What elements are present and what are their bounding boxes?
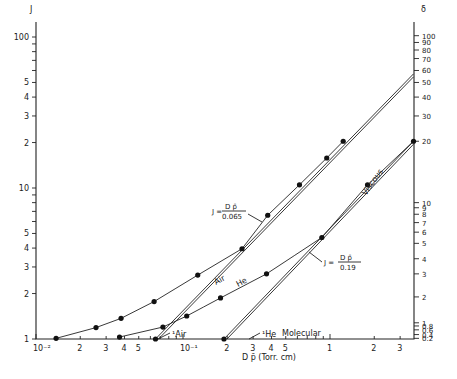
- x-tick-label: 1: [327, 344, 332, 353]
- y-tick-label: 4: [24, 93, 29, 102]
- he-marker-label: ¹He: [262, 330, 276, 339]
- x-tick-label: 4: [122, 344, 127, 353]
- eq1-denominator: 0.065: [222, 213, 242, 221]
- y-axis-label: J: [29, 5, 32, 14]
- x-tick-label: 3: [250, 344, 255, 353]
- y-tick-label: 5: [24, 78, 29, 87]
- eq1-numerator: D p̄: [225, 203, 238, 211]
- x-tick-label: 5: [136, 344, 141, 353]
- axis-frame: [36, 22, 414, 339]
- asymptote-line-double: [158, 77, 413, 339]
- data-point-he: [411, 139, 416, 144]
- x-ticks: 10⁻²234510⁻¹2345123: [33, 334, 402, 353]
- x-tick-label: 4: [269, 344, 274, 353]
- x-tick-label: 2: [77, 344, 82, 353]
- y-tick-label: 3: [24, 263, 29, 272]
- y2-tick-label: 60: [422, 67, 431, 75]
- axes: [36, 22, 414, 339]
- data-point-air: [324, 155, 329, 160]
- y-tick-label: 1: [24, 335, 29, 344]
- data-point-he: [184, 313, 189, 318]
- data-point-air: [53, 336, 58, 341]
- y-tick-label: 2: [24, 139, 29, 148]
- y2-tick-label: 1: [422, 320, 426, 328]
- y2-tick-label: 10: [422, 200, 431, 208]
- x-axis-label: D p̄ (Torr. cm): [242, 353, 296, 362]
- molecular-label: Molecular: [282, 329, 322, 338]
- data-point-air: [297, 182, 302, 187]
- asymptote-line: [155, 74, 413, 339]
- data-point-he: [319, 235, 324, 240]
- equation-air: J = D p̄ 0.065: [211, 203, 262, 222]
- data-point-he: [160, 324, 165, 329]
- eq2-lhs: J =: [323, 259, 334, 267]
- viscous-label: Viscous: [360, 167, 385, 197]
- y2-tick-label: 40: [422, 94, 431, 102]
- y2-tick-label: 80: [422, 47, 431, 55]
- y2-tick-label: 30: [422, 113, 431, 121]
- y2-tick-label: 2: [422, 294, 426, 302]
- x-tick-label: 3: [103, 344, 108, 353]
- air-curve-label: Air: [213, 273, 228, 287]
- y2-tick-label: 5: [422, 240, 426, 248]
- x-tick-label: 2: [371, 344, 376, 353]
- he-curve-label: He: [235, 276, 249, 289]
- y2-tick-label: 3: [422, 271, 426, 279]
- equation-he: J = D p̄ 0.19: [309, 252, 361, 272]
- x-tick-label: 2: [224, 344, 229, 353]
- y2-tick-label: 70: [422, 56, 431, 64]
- x-tick-label: 3: [397, 344, 402, 353]
- y-tick-label: 10: [19, 184, 29, 193]
- asymptote-line-double: [227, 144, 414, 339]
- eq2-denominator: 0.19: [340, 264, 356, 272]
- data-point-he: [117, 334, 122, 339]
- y2-tick-label: 100: [422, 33, 435, 41]
- data-point-air: [265, 213, 270, 218]
- y2-tick-label: 7: [422, 220, 426, 228]
- data-point-air: [118, 316, 123, 321]
- x-tick-label: 10⁻¹: [180, 344, 198, 353]
- y2-tick-label: 50: [422, 79, 431, 87]
- y-tick-label: 2: [24, 290, 29, 299]
- data-point-he: [218, 295, 223, 300]
- y2-tick-label: 4: [422, 256, 427, 264]
- asymptote-origin-point: [153, 336, 158, 341]
- data-point-air: [195, 272, 200, 277]
- y-tick-label: 100: [14, 33, 29, 42]
- curve-he: [120, 141, 414, 337]
- he-marker-leader: [249, 333, 260, 339]
- y-tick-label: 5: [24, 229, 29, 238]
- y2-tick-label: 20: [422, 138, 431, 146]
- y-tick-label: 4: [24, 244, 29, 253]
- x-tick-label: 5: [283, 344, 288, 353]
- x-tick-label: 10⁻²: [33, 344, 51, 353]
- y-ticks: 12345102345100: [14, 33, 36, 344]
- y2-tick-label: 6: [422, 229, 427, 237]
- asymptote-origin-point: [221, 336, 226, 341]
- y2-axis-label: δ: [421, 5, 426, 14]
- data-point-he: [264, 271, 269, 276]
- eq1-lhs: J =: [211, 208, 222, 216]
- data-point-air: [152, 299, 157, 304]
- data-points: [53, 139, 416, 342]
- y2-ticks: 0.20.40.60.81234567891020304050607080901…: [414, 33, 435, 344]
- air-marker-label: ¹Air: [172, 330, 187, 339]
- eq2-leader: [309, 252, 322, 262]
- data-point-air: [93, 325, 98, 330]
- data-point-air: [341, 139, 346, 144]
- eq2-numerator: D p̄: [340, 254, 353, 262]
- chart: 10⁻²234510⁻¹2345123 12345102345100 0.20.…: [0, 0, 457, 379]
- eq1-leader: [248, 214, 262, 222]
- data-point-air: [239, 246, 244, 251]
- y-tick-label: 3: [24, 112, 29, 121]
